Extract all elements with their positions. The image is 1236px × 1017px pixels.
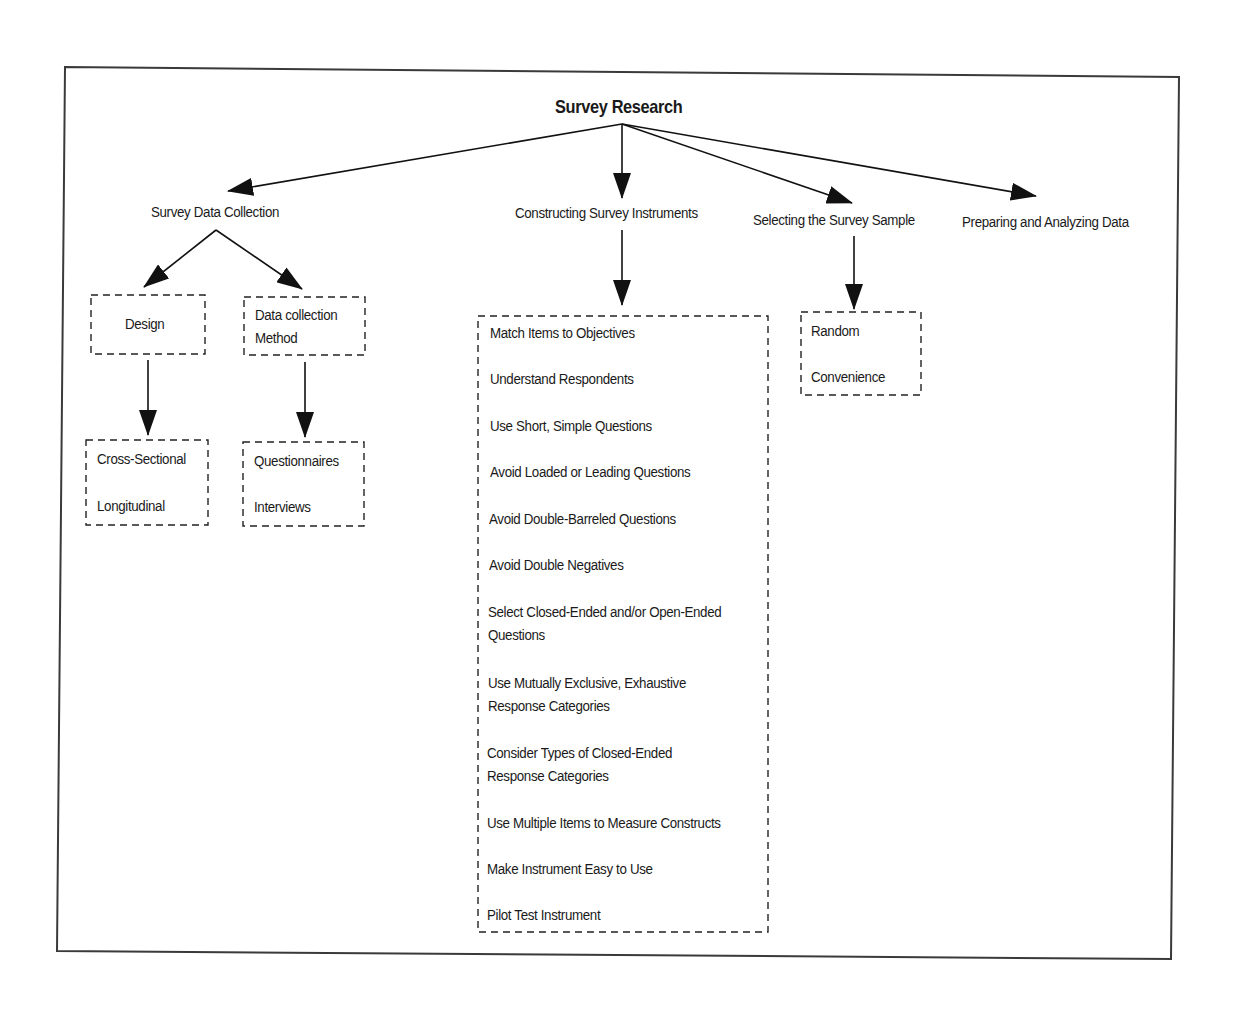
list-item-continued: Response Categories (488, 695, 610, 717)
list-item: Avoid Loaded or Leading Questions (490, 461, 690, 483)
diagram-title: Survey Research (555, 96, 682, 118)
list-item: Understand Respondents (490, 368, 634, 390)
data-collection-method-label-line1: Data collection (255, 304, 337, 326)
branch-preparing-analyzing-data: Preparing and Analyzing Data (962, 213, 1129, 231)
list-item: Use Short, Simple Questions (490, 415, 652, 437)
arrow-to-data-collection-method (216, 230, 302, 289)
arrow-to-preparing-data (622, 124, 1036, 196)
list-item: Avoid Double-Barreled Questions (489, 508, 676, 530)
list-item: Pilot Test Instrument (487, 904, 600, 926)
list-item-continued: Response Categories (487, 765, 609, 787)
method-item-interviews: Interviews (254, 496, 311, 518)
design-item-longitudinal: Longitudinal (97, 495, 165, 517)
design-item-cross-sectional: Cross-Sectional (97, 448, 186, 470)
list-item: Match Items to Objectives (490, 322, 635, 344)
arrow-to-selecting-sample (622, 124, 852, 203)
arrow-to-design (144, 230, 216, 287)
arrow-to-survey-data-collection (228, 124, 622, 191)
method-item-questionnaires: Questionnaires (254, 450, 339, 472)
list-item: Avoid Double Negatives (489, 554, 623, 576)
list-item: Make Instrument Easy to Use (487, 858, 653, 880)
list-item: Consider Types of Closed-Ended (487, 742, 672, 764)
design-label: Design (125, 313, 164, 335)
branch-constructing-survey-instruments: Constructing Survey Instruments (515, 204, 698, 222)
branch-survey-data-collection: Survey Data Collection (151, 203, 279, 221)
list-item-continued: Questions (488, 624, 545, 646)
list-item: Use Multiple Items to Measure Constructs (487, 812, 721, 834)
title-arrows (228, 124, 1036, 203)
sample-item-random: Random (811, 320, 859, 342)
data-collection-method-label-line2: Method (255, 327, 297, 349)
list-item: Select Closed-Ended and/or Open-Ended (488, 601, 721, 623)
list-item: Use Mutually Exclusive, Exhaustive (488, 672, 686, 694)
sample-item-convenience: Convenience (811, 366, 885, 388)
branch-selecting-survey-sample: Selecting the Survey Sample (753, 211, 915, 229)
